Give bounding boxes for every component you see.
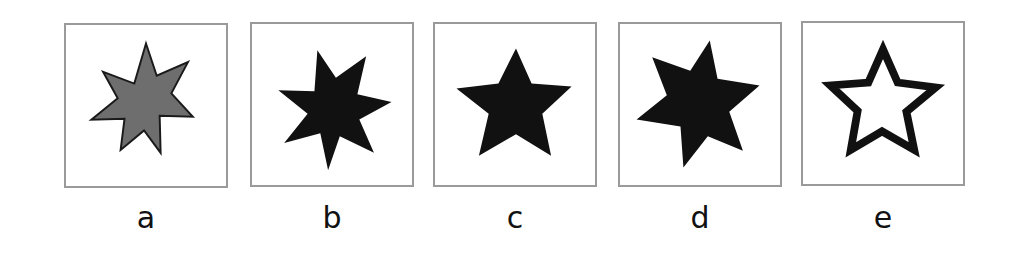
panel-d xyxy=(618,22,782,187)
panel-e xyxy=(801,21,965,186)
five-pointed-star-black-icon xyxy=(435,24,595,185)
panel-c xyxy=(433,22,597,187)
star-e-shape xyxy=(830,49,935,149)
label-a: a xyxy=(64,200,228,236)
label-d: d xyxy=(618,200,782,236)
label-b: b xyxy=(250,200,414,236)
label-c: c xyxy=(433,200,597,236)
seven-pointed-star-gray-icon xyxy=(66,25,226,186)
star-c-shape xyxy=(456,48,571,155)
label-e: e xyxy=(801,200,965,236)
panel-a xyxy=(64,23,228,188)
five-pointed-star-outline-icon xyxy=(803,23,963,184)
six-pointed-star-black-icon xyxy=(620,24,780,185)
panel-b xyxy=(250,22,414,187)
star-b-shape xyxy=(278,50,391,170)
star-d-shape xyxy=(637,41,760,168)
seven-pointed-star-black-icon xyxy=(252,24,412,185)
star-a-shape xyxy=(91,44,192,153)
